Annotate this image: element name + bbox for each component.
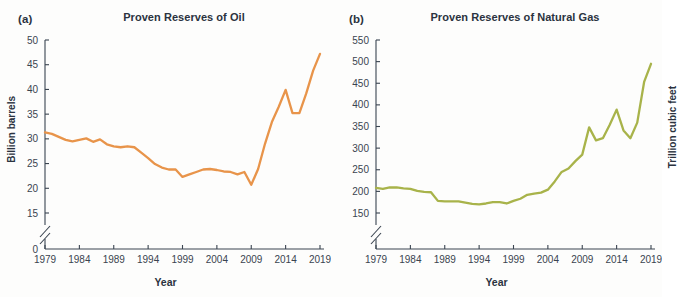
y-tick-label: 450 <box>352 78 369 89</box>
y-tick-label: 20 <box>27 183 39 194</box>
x-tick-label: 1999 <box>502 254 525 265</box>
x-tick-label: 2014 <box>606 254 629 265</box>
y-tick-label: 40 <box>27 84 39 95</box>
x-tick-label: 1989 <box>103 254 126 265</box>
y-tick-label: 550 <box>352 35 369 46</box>
data-series-line <box>45 54 320 185</box>
y-tick-label: 350 <box>352 121 369 132</box>
x-tick-label: 2004 <box>206 254 229 265</box>
y-tick-label: 300 <box>352 143 369 154</box>
x-tick-label: 1999 <box>171 254 194 265</box>
y-tick-label: 45 <box>27 59 39 70</box>
plot-area-gas: 1502002503003504004505005501979198419891… <box>331 0 662 297</box>
x-tick-label: 1984 <box>68 254 91 265</box>
chart-panel-gas: (b) Proven Reserves of Natural Gas Trill… <box>331 0 662 297</box>
x-tick-label: 1979 <box>365 254 388 265</box>
y-tick-label: 35 <box>27 109 39 120</box>
y-tick-label: 150 <box>352 208 369 219</box>
x-tick-label: 2004 <box>537 254 560 265</box>
x-tick-label: 2009 <box>240 254 263 265</box>
y-tick-label: 200 <box>352 186 369 197</box>
x-tick-label: 2009 <box>571 254 594 265</box>
x-tick-label: 1989 <box>434 254 457 265</box>
y-tick-label: 25 <box>27 158 39 169</box>
x-tick-label: 1994 <box>137 254 160 265</box>
chart-panel-oil: (a) Proven Reserves of Oil Billion barre… <box>0 0 331 297</box>
x-tick-label: 2019 <box>640 254 662 265</box>
x-tick-label: 1979 <box>34 254 57 265</box>
x-tick-label: 2019 <box>309 254 331 265</box>
y-tick-label: 30 <box>27 133 39 144</box>
x-tick-label: 2014 <box>275 254 298 265</box>
y-tick-label: 500 <box>352 56 369 67</box>
y-tick-label: 250 <box>352 164 369 175</box>
y-tick-label: 50 <box>27 35 39 46</box>
y-axis-label-gas: Trillion cubic feet <box>667 86 678 168</box>
x-axis-label-oil: Year <box>0 276 331 288</box>
plot-area-oil: 0152025303540455019791984198919941999200… <box>0 0 331 297</box>
y-tick-label: 0 <box>32 244 38 255</box>
y-tick-label: 400 <box>352 99 369 110</box>
y-tick-label: 15 <box>27 208 39 219</box>
data-series-line <box>376 64 651 205</box>
x-axis-label-gas: Year <box>331 276 662 288</box>
x-tick-label: 1994 <box>468 254 491 265</box>
x-tick-label: 1984 <box>399 254 422 265</box>
